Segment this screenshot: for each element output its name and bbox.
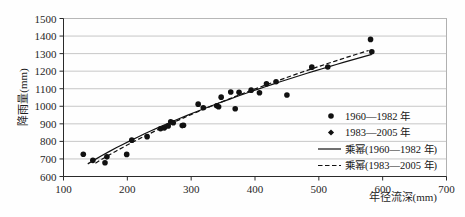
x-tick-label-200: 200	[119, 183, 136, 195]
y-tickmarks	[60, 19, 64, 177]
x-tick-label-500: 500	[311, 183, 328, 195]
legend-label-1: 1960—1982 年	[345, 110, 410, 122]
y-tick-label-800: 800	[40, 135, 57, 147]
y-tick-labels: 600700800900100011001200130014001500	[35, 13, 58, 183]
y-tick-label-900: 900	[40, 118, 57, 130]
y-tick-label-1200: 1200	[35, 65, 58, 77]
x-tick-label-300: 300	[183, 183, 200, 195]
y-tick-label-1400: 1400	[35, 30, 58, 42]
y-tick-label-1500: 1500	[35, 13, 58, 25]
series-1960-1982-points	[80, 37, 374, 166]
chart-legend: 1960—1982 年1983—2005 年乘幂(1960—1982 年)乘幂(…	[318, 110, 438, 173]
y-tick-label-1300: 1300	[35, 48, 58, 60]
x-tickmarks	[64, 177, 447, 181]
scatter-plot: 100200300400500600700 600700800900100011…	[0, 0, 465, 217]
x-axis-title: 年径流深(mm)	[369, 190, 438, 204]
y-tick-label-1100: 1100	[35, 83, 57, 95]
x-tick-label-400: 400	[247, 183, 264, 195]
trendline-1	[88, 54, 372, 164]
y-axis-title: 降雨量(mm)	[16, 68, 30, 126]
legend-label-4: 乘幂(1983—2005 年)	[345, 159, 438, 172]
y-tick-label-1000: 1000	[35, 100, 58, 112]
y-tick-label-600: 600	[40, 171, 57, 183]
axes-group	[60, 19, 447, 181]
x-tick-label-700: 700	[438, 183, 455, 195]
y-tick-label-700: 700	[40, 153, 57, 165]
legend-label-2: 1983—2005 年	[345, 126, 410, 138]
chart-figure: 100200300400500600700 600700800900100011…	[0, 0, 465, 217]
series-1983-2005-points	[104, 0, 353, 152]
legend-label-3: 乘幂(1960—1982 年)	[345, 143, 438, 156]
x-tick-label-100: 100	[55, 183, 72, 195]
